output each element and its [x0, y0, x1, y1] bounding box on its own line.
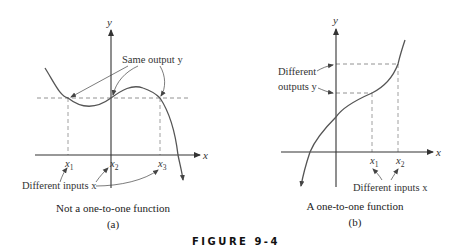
different-inputs-annotation-b: Different inputs x	[353, 182, 428, 193]
arrow-to-x1-b	[373, 169, 382, 180]
arrow-to-point-3	[160, 66, 165, 96]
arrow-to-lower-output	[318, 88, 333, 93]
increasing-curve	[301, 40, 405, 186]
tick-x3: x3	[157, 158, 167, 172]
sublabel-a: (a)	[107, 218, 120, 231]
different-outputs-annotation-line2: outputs y	[278, 81, 318, 92]
caption-a: Not a one-to-one function	[56, 202, 170, 214]
panel-b: x y Different outputs y x1 x2 Different …	[278, 14, 441, 229]
sublabel-b: (b)	[349, 216, 362, 229]
same-output-annotation: Same output y	[122, 54, 183, 65]
y-axis-label: y	[106, 16, 112, 28]
different-inputs-annotation-a: Different inputs x	[22, 180, 97, 191]
panel-a: x y Same output y x1 x2 x3 Different inp…	[22, 16, 208, 231]
x-axis-label: x	[202, 149, 208, 161]
x-axis-label-b: x	[435, 146, 441, 158]
different-outputs-annotation: Different	[278, 66, 316, 77]
caption-b: A one-to-one function	[306, 200, 404, 212]
arrow-to-x2	[96, 168, 108, 182]
figure-9-4: x y Same output y x1 x2 x3 Different inp…	[0, 0, 460, 249]
arrow-to-upper-output	[317, 65, 333, 71]
tick-x2-b: x2	[395, 155, 405, 169]
arrow-to-point-2	[113, 66, 138, 95]
figure-label: FIGURE 9-4	[192, 236, 280, 247]
y-axis-label-b: y	[332, 14, 338, 26]
arrow-to-x3	[96, 170, 158, 186]
arrow-to-x2-b	[391, 169, 398, 180]
tick-x1-b: x1	[369, 155, 379, 169]
